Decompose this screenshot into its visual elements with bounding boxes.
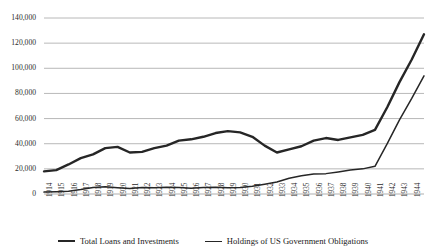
x-axis-tick-label: 1940 bbox=[366, 183, 373, 197]
x-axis-tick-label: 1944 bbox=[415, 183, 422, 197]
x-axis-tick-label: 1928 bbox=[219, 183, 226, 197]
x-axis-tick-label: 1923 bbox=[157, 183, 164, 197]
x-axis-tick-label: 1932 bbox=[268, 183, 275, 197]
legend-label: Total Loans and Investments bbox=[80, 236, 179, 246]
legend-label: Holdings of US Government Obligations bbox=[227, 236, 368, 246]
x-axis-tick-label: 1943 bbox=[402, 183, 409, 197]
x-axis-tick-label: 1936 bbox=[317, 183, 324, 197]
x-axis-tick-label: 1930 bbox=[243, 183, 250, 197]
legend-swatch-icon bbox=[205, 241, 222, 242]
x-axis-tick-label: 1937 bbox=[329, 183, 336, 197]
chart-container: 140,000120,000100,00080,00060,00040,0002… bbox=[0, 0, 426, 252]
x-axis-tick-label: 1920 bbox=[121, 183, 128, 197]
x-axis-tick-label: 1941 bbox=[378, 183, 385, 197]
x-axis-tick-label: 1926 bbox=[194, 183, 201, 197]
x-axis-tick-label: 1916 bbox=[72, 183, 79, 197]
x-axis-tick-label: 1929 bbox=[231, 183, 238, 197]
x-axis-tick-label: 1935 bbox=[304, 183, 311, 197]
legend-item-holdings[interactable]: Holdings of US Government Obligations bbox=[205, 236, 368, 246]
x-axis-tick-label: 1933 bbox=[280, 183, 287, 197]
x-axis-tick-label: 1914 bbox=[47, 183, 54, 197]
y-axis-tick-label: 60,000 bbox=[0, 115, 36, 123]
x-axis-tick-label: 1934 bbox=[292, 183, 299, 197]
x-axis-tick-label: 1927 bbox=[206, 183, 213, 197]
x-axis-tick-label: 1924 bbox=[170, 183, 177, 197]
x-axis-tick-label: 1921 bbox=[133, 183, 140, 197]
x-axis-tick-label: 1931 bbox=[255, 183, 262, 197]
y-axis-tick-label: 40,000 bbox=[0, 140, 36, 148]
plot-area bbox=[0, 0, 426, 252]
legend-item-total-loans[interactable]: Total Loans and Investments bbox=[58, 236, 179, 246]
x-axis-tick-label: 1925 bbox=[182, 183, 189, 197]
x-axis-tick-label: 1918 bbox=[96, 183, 103, 197]
y-axis-tick-label: 0 bbox=[0, 190, 36, 198]
x-axis-tick-label: 1919 bbox=[108, 183, 115, 197]
series-line-0 bbox=[44, 34, 424, 171]
x-axis-tick-label: 1942 bbox=[390, 183, 397, 197]
x-axis-tick-label: 1938 bbox=[341, 183, 348, 197]
series-lines bbox=[44, 34, 424, 192]
y-axis-tick-label: 80,000 bbox=[0, 89, 36, 97]
x-axis-tick-label: 1939 bbox=[353, 183, 360, 197]
y-axis-tick-label: 100,000 bbox=[0, 64, 36, 72]
y-axis-tick-label: 120,000 bbox=[0, 39, 36, 47]
x-axis-tick-label: 1922 bbox=[145, 183, 152, 197]
chart-legend: Total Loans and Investments Holdings of … bbox=[0, 233, 426, 249]
x-axis-tick-label: 1915 bbox=[59, 183, 66, 197]
x-axis-tick-label: 1917 bbox=[84, 183, 91, 197]
y-axis-tick-label: 140,000 bbox=[0, 14, 36, 22]
y-axis-tick-label: 20,000 bbox=[0, 165, 36, 173]
legend-swatch-icon bbox=[58, 240, 75, 242]
